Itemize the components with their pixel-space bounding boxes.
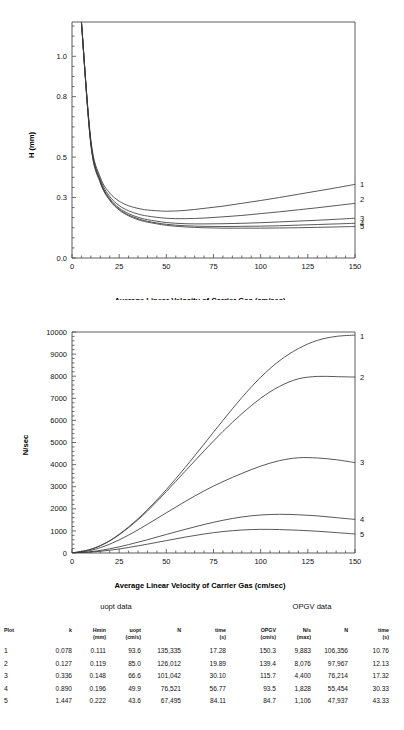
table-row-plot-number: 1 xyxy=(4,647,8,654)
table-cell: 66.6 xyxy=(128,672,141,679)
figure-root: 02550751001251500.00.30.50.81.0 12345 Av… xyxy=(0,0,404,730)
table-row-plot-number: 5 xyxy=(4,697,8,704)
curve-label-2: 2 xyxy=(360,195,364,204)
table-cell: 12.13 xyxy=(372,660,389,667)
table-cell: 106,356 xyxy=(324,647,348,654)
y-tick-label: 10000 xyxy=(46,328,67,337)
table-column-header: Hmin xyxy=(93,627,106,633)
table-cell: 101,042 xyxy=(157,672,181,679)
x-axis-title-bottom: Average Linear Velocity of Carrier Gas (… xyxy=(114,581,286,590)
table-cell: 150.3 xyxy=(259,647,276,654)
table-column-header-unit: (max) xyxy=(297,634,311,640)
table-cell: 4,400 xyxy=(294,672,311,679)
table-cell: 139.4 xyxy=(259,660,276,667)
x-tick-label: 150 xyxy=(349,262,362,271)
curve-3 xyxy=(81,22,355,224)
x-tick-label: 100 xyxy=(254,262,267,271)
y-tick-label: 3000 xyxy=(50,482,67,491)
table-column-header-unit: (mm) xyxy=(93,634,106,640)
curve-5 xyxy=(81,22,355,228)
x-tick-label: 125 xyxy=(302,262,315,271)
table-cell: 126,012 xyxy=(157,660,181,667)
curve-label-1: 1 xyxy=(360,332,364,341)
table-cell: 93.5 xyxy=(263,685,276,692)
table-cell: 30.10 xyxy=(209,672,226,679)
table-cell: 8,076 xyxy=(294,660,311,667)
y-tick-label: 8000 xyxy=(50,372,67,381)
y-tick-label: 0.8 xyxy=(57,92,67,101)
curve-4 xyxy=(72,514,355,553)
table-cell: 97,967 xyxy=(328,660,349,667)
table-cell: 10.76 xyxy=(372,647,389,654)
table-column-header-unit: (cm/s) xyxy=(260,634,276,640)
table-cell: 0.119 xyxy=(90,660,106,667)
table-cell: 67,495 xyxy=(161,697,182,704)
y-tick-label: 9000 xyxy=(50,350,67,359)
table-cell: 56.77 xyxy=(209,685,226,692)
y-tick-label: 5000 xyxy=(50,438,67,447)
table-cell: 9,883 xyxy=(294,647,311,654)
y-tick-label: 4000 xyxy=(50,460,67,469)
x-axis-title-top: Average Linear Velocity of Carrier Gas (… xyxy=(114,296,286,300)
curve-label-5: 5 xyxy=(360,222,364,231)
table-cell: 17.28 xyxy=(209,647,226,654)
y-tick-label: 0.0 xyxy=(57,254,67,263)
x-tick-label: 75 xyxy=(209,557,217,566)
table-cell: 84.11 xyxy=(210,697,226,704)
y-axis-title-top: H (mm) xyxy=(27,131,36,158)
table-cell: 0.127 xyxy=(55,660,72,667)
table-cell: 30.33 xyxy=(372,685,389,692)
table-cell: 43.6 xyxy=(128,697,141,704)
table-cell: 43.33 xyxy=(372,697,389,704)
y-axis-title-bottom: N/sec xyxy=(21,435,30,455)
table-column-header: time xyxy=(378,627,389,633)
table-cell: 0.078 xyxy=(55,647,72,654)
curve-1 xyxy=(72,335,355,553)
table-column-header-unit: (s) xyxy=(383,634,390,640)
table-cell: 1,106 xyxy=(294,697,311,704)
table-row-plot-number: 3 xyxy=(4,672,8,679)
table-column-header: Plot xyxy=(4,627,14,633)
y-tick-label: 0.3 xyxy=(57,193,67,202)
y-tick-label: 7000 xyxy=(50,394,67,403)
table-cell: 1.447 xyxy=(55,697,72,704)
table-column-header: OPGV xyxy=(261,627,277,633)
x-tick-label: 0 xyxy=(70,262,74,271)
table-column-header: time xyxy=(215,627,226,633)
x-tick-label: 75 xyxy=(209,262,217,271)
curve-label-5: 5 xyxy=(360,530,364,539)
table-cell: 93.6 xyxy=(128,647,141,654)
table-cell: 1,828 xyxy=(294,685,311,692)
curve-2 xyxy=(81,22,355,219)
table-column-header: N xyxy=(344,627,348,633)
table-cell: 76,521 xyxy=(161,685,182,692)
y-tick-label: 1.0 xyxy=(57,52,67,61)
table-cell: 47,937 xyxy=(328,697,349,704)
table-column-header: uopt xyxy=(130,627,142,633)
table-cell: 0.111 xyxy=(90,647,106,654)
table-column-header-unit: (s) xyxy=(220,634,227,640)
curve-label-3: 3 xyxy=(360,458,364,467)
x-tick-label: 0 xyxy=(70,557,74,566)
table-group-header: OPGV data xyxy=(293,602,333,611)
y-tick-label: 0 xyxy=(63,549,67,558)
x-tick-label: 25 xyxy=(115,557,123,566)
x-tick-label: 50 xyxy=(162,262,170,271)
table-cell: 55,454 xyxy=(328,685,349,692)
table-cell: 0.222 xyxy=(89,697,106,704)
table-cell: 0.890 xyxy=(55,685,72,692)
y-tick-label: 2000 xyxy=(50,504,67,513)
curve-2 xyxy=(72,376,355,553)
table-group-header: uopt data xyxy=(100,602,132,611)
table-cell: 19.89 xyxy=(209,660,226,667)
table-cell: 17.32 xyxy=(372,672,389,679)
curve-label-1: 1 xyxy=(360,180,364,189)
chart-h-vs-velocity: 02550751001251500.00.30.50.81.0 12345 Av… xyxy=(0,0,404,300)
data-table: uopt dataOPGV data PlotkHmin(mm)uopt(cm/… xyxy=(0,600,404,725)
x-tick-label: 150 xyxy=(349,557,362,566)
table-cell: 135,335 xyxy=(157,647,181,654)
table-cell: 115.7 xyxy=(260,672,276,679)
table-cell: 0.148 xyxy=(89,672,106,679)
table-column-header: N xyxy=(177,627,181,633)
curve-4 xyxy=(81,22,355,227)
